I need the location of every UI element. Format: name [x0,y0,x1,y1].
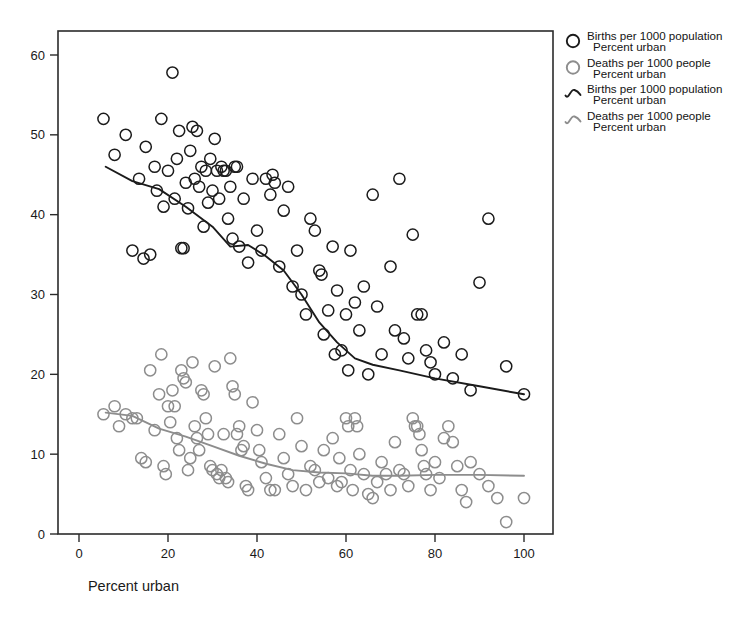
x-axis-title: Percent urban [88,578,179,594]
y-tick-label: 0 [38,527,45,542]
legend-label-secondary: Percent urban [593,40,666,53]
scatter-plot: 0204060801000102030405060 Percent urban … [0,0,750,636]
y-tick-label: 20 [31,367,45,382]
x-tick-label: 100 [513,546,535,561]
x-tick-label: 80 [428,546,442,561]
x-tick-label: 40 [250,546,264,561]
chart-container: 0204060801000102030405060 Percent urban … [0,0,750,636]
x-tick-label: 0 [75,546,82,561]
y-tick-label: 30 [31,287,45,302]
x-axis-title-text: Percent urban [88,578,179,594]
x-tick-label: 20 [161,546,175,561]
y-tick-label: 10 [31,447,45,462]
legend-label-secondary: Percent urban [593,67,666,80]
x-tick-label: 60 [339,546,353,561]
y-tick-label: 50 [31,127,45,142]
legend-label-secondary: Percent urban [593,93,666,106]
legend-label-secondary: Percent urban [593,120,666,133]
y-tick-label: 40 [31,207,45,222]
y-tick-label: 60 [31,48,45,63]
